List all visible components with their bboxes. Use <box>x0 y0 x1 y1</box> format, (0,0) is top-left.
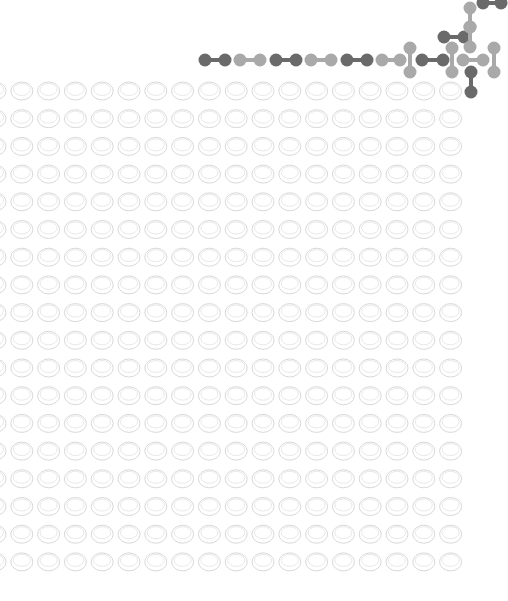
molecule-chain-decoration <box>0 0 508 601</box>
molecule-dumbbell-icon <box>438 31 471 44</box>
molecule-dumbbell-icon <box>234 54 267 67</box>
molecule-dumbbell-icon <box>341 54 374 67</box>
molecule-dumbbell-icon <box>457 54 490 67</box>
molecule-dumbbell-icon <box>376 54 407 67</box>
molecule-dumbbell-icon <box>305 54 338 67</box>
molecule-dumbbell-icon <box>465 66 478 99</box>
decorative-canvas <box>0 0 508 601</box>
molecule-dumbbell-icon <box>477 0 508 10</box>
molecule-dumbbell-icon <box>416 54 450 67</box>
molecule-dumbbell-icon <box>270 54 303 67</box>
molecule-dumbbell-icon <box>199 54 232 67</box>
